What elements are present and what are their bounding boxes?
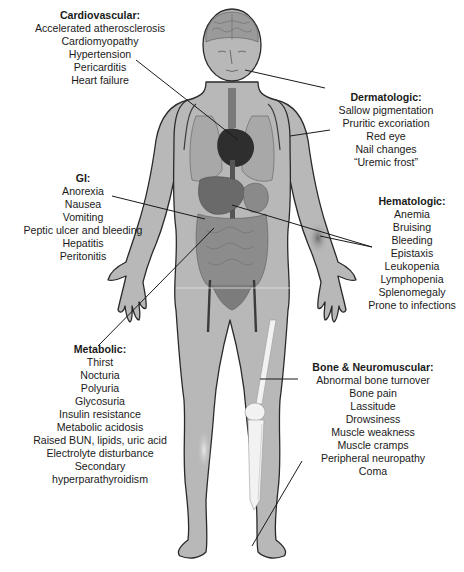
gi-item: Vomiting (18, 211, 148, 224)
hematologic-title: Hematologic: (362, 195, 462, 208)
metabolic-title: Metabolic: (30, 343, 170, 356)
cardiovascular-item: Heart failure (30, 74, 170, 87)
gi-title: GI: (18, 172, 148, 185)
dermatologic-item: “Uremic frost” (326, 156, 446, 169)
hematologic-item: Lymphopenia (362, 273, 462, 286)
hematologic-item: Leukopenia (362, 260, 462, 273)
metabolic-item: Glycosuria (30, 395, 170, 408)
bone-neuromuscular-item: Abnormal bone turnover (298, 374, 448, 387)
metabolic-item: Thirst (30, 356, 170, 369)
hematologic-item: Prone to infections (362, 299, 462, 312)
bruise-mark (308, 222, 328, 254)
metabolic-item: Raised BUN, lipids, uric acid (30, 434, 170, 447)
cardiovascular-item: Hypertension (30, 48, 170, 61)
gi-item: Anorexia (18, 185, 148, 198)
hematologic-item: Bruising (362, 221, 462, 234)
hematologic-item: Bleeding (362, 234, 462, 247)
metabolic-item: Electrolyte disturbance (30, 447, 170, 460)
cardiovascular-title: Cardiovascular: (30, 9, 170, 22)
dermatologic-item: Sallow pigmentation (326, 104, 446, 117)
bone-neuromuscular-title: Bone & Neuromuscular: (298, 361, 448, 374)
metabolic-item: Insulin resistance (30, 408, 170, 421)
hematologic-item: Epistaxis (362, 247, 462, 260)
leg-highlight (197, 428, 211, 472)
bone-neuromuscular-item: Muscle cramps (298, 439, 448, 452)
hematologic-item: Splenomegaly (362, 286, 462, 299)
bone-neuromuscular-item: Peripheral neuropathy (298, 452, 448, 465)
cardiovascular-item: Cardiomyopathy (30, 35, 170, 48)
cardiovascular-item: Pericarditis (30, 61, 170, 74)
dermatologic-item: Pruritic excoriation (326, 117, 446, 130)
bone-neuromuscular-item: Muscle weakness (298, 426, 448, 439)
bone-neuromuscular-item: Bone pain (298, 387, 448, 400)
metabolic-item: hyperparathyroidism (30, 473, 170, 486)
dermatologic-title: Dermatologic: (326, 91, 446, 104)
hematologic-group: Hematologic: Anemia Bruising Bleeding Ep… (362, 195, 462, 312)
gi-item: Hepatitis (18, 237, 148, 250)
cardiovascular-item: Accelerated atherosclerosis (30, 22, 170, 35)
dermatologic-group: Dermatologic: Sallow pigmentation Prurit… (326, 91, 446, 169)
bone-neuromuscular-item: Coma (298, 465, 448, 478)
metabolic-item: Metabolic acidosis (30, 421, 170, 434)
metabolic-item: Secondary (30, 460, 170, 473)
gi-item: Peptic ulcer and bleeding (18, 224, 148, 237)
metabolic-group: Metabolic: Thirst Nocturia Polyuria Glyc… (30, 343, 170, 486)
metabolic-item: Polyuria (30, 382, 170, 395)
dermatologic-item: Nail changes (326, 143, 446, 156)
bone-neuromuscular-item: Drowsiness (298, 413, 448, 426)
metabolic-item: Nocturia (30, 369, 170, 382)
dermatologic-item: Red eye (326, 130, 446, 143)
bone-neuromuscular-item: Lassitude (298, 400, 448, 413)
gi-group: GI: Anorexia Nausea Vomiting Peptic ulce… (18, 172, 148, 263)
hematologic-item: Anemia (362, 208, 462, 221)
cardiovascular-group: Cardiovascular: Accelerated atherosclero… (30, 9, 170, 87)
gi-item: Nausea (18, 198, 148, 211)
bone-neuromuscular-group: Bone & Neuromuscular: Abnormal bone turn… (298, 361, 448, 478)
gi-item: Peritonitis (18, 250, 148, 263)
